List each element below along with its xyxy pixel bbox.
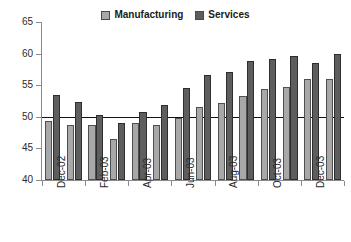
bar-manufacturing-dec-03: [304, 79, 311, 180]
bar-manufacturing-apr-03: [132, 123, 139, 180]
x-tick-label: Dec-02: [57, 156, 67, 188]
y-tick-label: 60: [0, 49, 33, 59]
y-tick-label: 40: [0, 175, 33, 185]
legend-label-manufacturing: Manufacturing: [114, 10, 183, 20]
bar-services-jan-04: [334, 54, 341, 180]
x-tick-mark: [258, 181, 259, 186]
chart-container: Manufacturing Services 656055504540 Dec-…: [0, 0, 351, 242]
x-tick-mark: [42, 181, 43, 186]
x-tick-mark: [171, 181, 172, 186]
x-tick-label: Aug-03: [229, 156, 239, 188]
bar-services-jul-03: [204, 75, 211, 180]
bar-services-sep-03: [247, 61, 254, 180]
y-tick-label: 65: [0, 17, 33, 27]
bar-manufacturing-jun-03: [175, 118, 182, 180]
bar-manufacturing-sep-03: [239, 96, 246, 180]
bar-manufacturing-dec-02: [45, 121, 52, 180]
bar-services-mar-03: [118, 123, 125, 181]
bar-services-may-03: [161, 105, 168, 180]
y-tick-label: 45: [0, 143, 33, 153]
bar-manufacturing-mar-03: [110, 139, 117, 180]
x-tick-mark: [128, 181, 129, 186]
bar-manufacturing-jan-03: [67, 125, 74, 180]
services-swatch-icon: [195, 11, 204, 20]
bar-manufacturing-may-03: [153, 125, 160, 180]
manufacturing-swatch-icon: [101, 11, 110, 20]
x-tick-label: Oct-03: [273, 158, 283, 188]
legend-label-services: Services: [208, 10, 249, 20]
legend-item-services: Services: [195, 10, 249, 20]
reference-line-50: [42, 117, 344, 118]
bar-manufacturing-nov-03: [283, 87, 290, 180]
legend-item-manufacturing: Manufacturing: [101, 10, 183, 20]
bar-manufacturing-jan-04: [326, 79, 333, 180]
x-tick-label: Dec-03: [316, 156, 326, 188]
x-tick-mark: [85, 181, 86, 186]
y-tick-label: 50: [0, 112, 33, 122]
bar-manufacturing-feb-03: [88, 125, 95, 180]
x-tick-label: Apr-03: [143, 158, 153, 188]
x-tick-label: Jun-03: [186, 157, 196, 188]
bar-manufacturing-jul-03: [196, 107, 203, 180]
bar-services-jan-03: [75, 102, 82, 180]
x-tick-mark: [344, 181, 345, 186]
y-tick-label: 55: [0, 80, 33, 90]
x-tick-mark: [215, 181, 216, 186]
x-tick-label: Feb-03: [100, 156, 110, 188]
bar-services-nov-03: [290, 56, 297, 181]
bar-manufacturing-oct-03: [261, 89, 268, 180]
bar-manufacturing-aug-03: [218, 103, 225, 180]
x-tick-mark: [301, 181, 302, 186]
